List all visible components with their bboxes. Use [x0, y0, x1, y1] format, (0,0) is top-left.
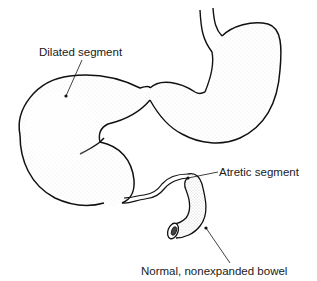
- bowel-illustration: [0, 0, 317, 281]
- upper-dilated-loop: [146, 23, 281, 143]
- label-normal-bowel: Normal, nonexpanded bowel: [141, 266, 287, 278]
- label-dilated-segment: Dilated segment: [39, 47, 122, 59]
- normal-bowel: [166, 174, 206, 241]
- label-atretic-segment: Atretic segment: [219, 167, 299, 179]
